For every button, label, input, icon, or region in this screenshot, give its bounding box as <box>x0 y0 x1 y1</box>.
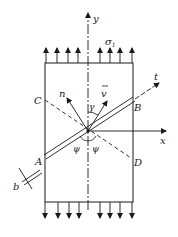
top-stress-arrows <box>46 48 132 63</box>
diagram-canvas: y σ1 x C D t A B <box>0 0 178 237</box>
normal-label: n <box>59 88 65 99</box>
point-a-label: A <box>34 156 42 167</box>
velocity-label: v <box>101 88 107 99</box>
bottom-stress-arrows <box>45 202 132 218</box>
y-axis-label: y <box>92 13 99 24</box>
normal-vector <box>67 98 88 131</box>
psi-right-label: ψ <box>92 144 100 154</box>
x-axis-label: x <box>160 135 166 146</box>
t-axis <box>135 83 159 99</box>
center-point <box>86 129 89 132</box>
t-axis-label: t <box>154 71 159 82</box>
stress-element-box <box>45 63 133 202</box>
gamma-label: γ <box>89 102 95 112</box>
gamma-angle-arc <box>88 112 98 115</box>
psi-left-label: ψ <box>73 144 81 154</box>
point-b-label: B <box>133 102 141 113</box>
point-c-label: C <box>34 95 42 106</box>
band-width-marker <box>19 168 42 189</box>
point-d-label: D <box>133 157 142 168</box>
band-width-label: b <box>13 181 19 192</box>
stress-label: σ1 <box>105 36 116 48</box>
